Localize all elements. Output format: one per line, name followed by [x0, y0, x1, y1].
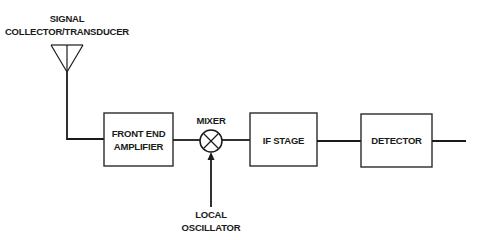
front-end-amplifier-block: FRONT END AMPLIFIER	[104, 113, 173, 166]
if-stage-label: IF STAGE	[263, 135, 305, 146]
if-stage-block: IF STAGE	[250, 113, 317, 166]
detector-block: DETECTOR	[361, 114, 432, 167]
oscillator-label-line1: LOCAL	[195, 209, 227, 220]
antenna-label-line1: SIGNAL	[50, 13, 85, 24]
receiver-block-diagram: SIGNAL COLLECTOR/TRANSDUCER FRONT END AM…	[0, 0, 482, 240]
antenna-label-line2: COLLECTOR/TRANSDUCER	[5, 26, 129, 37]
detector-label: DETECTOR	[371, 135, 422, 146]
front-end-label-line2: AMPLIFIER	[114, 141, 164, 152]
oscillator-label-line2: OSCILLATOR	[182, 222, 241, 233]
mixer-label: MIXER	[196, 115, 225, 126]
antenna-feed-line	[67, 72, 104, 139]
front-end-label-line1: FRONT END	[112, 128, 166, 139]
mixer-icon	[200, 130, 222, 152]
oscillator-arrow-icon	[208, 152, 215, 207]
antenna-icon	[51, 45, 83, 72]
